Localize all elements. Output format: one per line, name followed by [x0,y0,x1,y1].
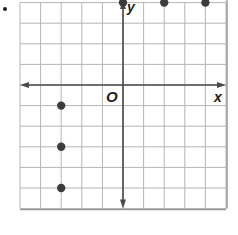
data-point [201,0,209,7]
data-point [160,0,168,7]
origin-label: O [106,88,118,105]
y-axis-down-arrow-icon [120,200,126,209]
data-point [57,184,65,192]
coordinate-plane-figure: yxO [0,0,238,235]
x-axis-label: x [213,89,223,105]
coordinate-plane: yxO [0,0,238,235]
x-axis-left-arrow-icon [20,82,29,88]
y-axis-label: y [126,0,136,15]
data-point [119,0,127,7]
data-point [57,101,65,109]
x-axis-right-arrow-icon [217,82,226,88]
data-point [57,143,65,151]
